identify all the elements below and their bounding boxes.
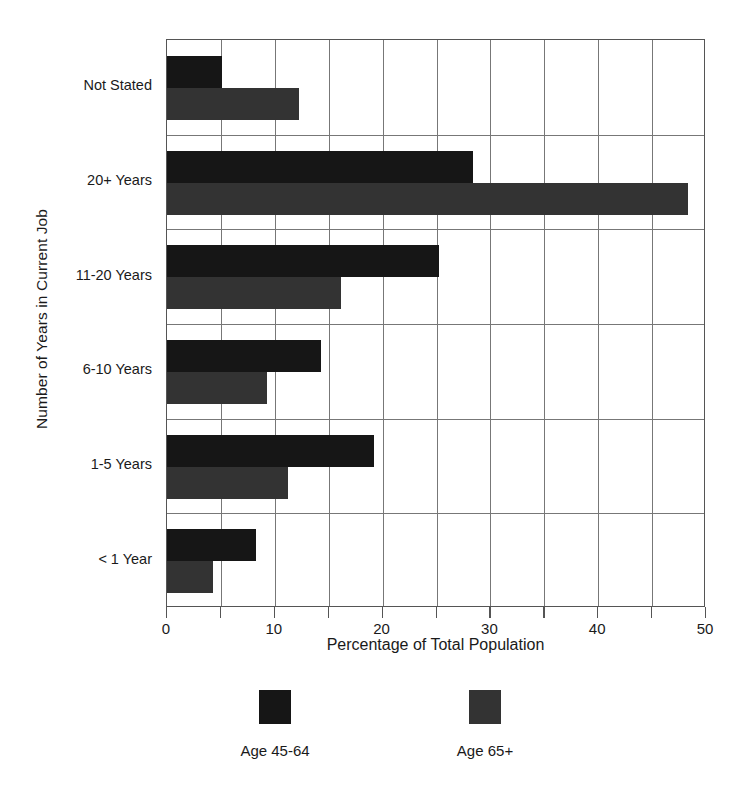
bar [167,467,288,499]
bar-group [167,419,704,514]
x-axis-tick [274,607,275,618]
bar-group [167,324,704,419]
bar-group [167,40,704,135]
plot-area [166,39,705,607]
x-axis-tick [166,607,167,618]
x-axis-tick [382,607,383,618]
legend-item: Age 65+ [400,690,570,759]
x-axis-ticks: 01020304050 [166,607,705,619]
x-axis-tick-label: 30 [481,620,498,637]
x-axis-tick-label: 50 [697,620,714,637]
legend-label: Age 45-64 [190,742,360,759]
bar [167,56,222,88]
x-axis-tick [328,607,329,618]
x-axis-tick [705,607,706,618]
y-axis-tick-label: 1-5 Years [0,456,152,472]
bar [167,277,341,309]
legend-swatch [259,690,291,724]
y-axis-tick-label: < 1 Year [0,551,152,567]
bar-group [167,229,704,324]
bar-chart: Number of Years in Current Job < 1 Year1… [0,0,751,799]
bar [167,183,688,215]
x-axis-title: Percentage of Total Population [166,636,705,654]
x-axis-tick-label: 10 [265,620,282,637]
y-axis-tick-label: 6-10 Years [0,361,152,377]
x-axis-tick-label: 20 [373,620,390,637]
x-axis-tick-label: 0 [162,620,170,637]
x-axis-tick [436,607,437,618]
y-axis-title: Number of Years in Current Job [33,109,51,529]
y-axis-tick-label: Not Stated [0,77,152,93]
bar-group [167,513,704,608]
bar [167,435,374,467]
x-axis-tick [651,607,652,618]
x-axis-tick [220,607,221,618]
legend-label: Age 65+ [400,742,570,759]
bar [167,151,473,183]
bar-group [167,135,704,230]
x-axis-tick [489,607,490,618]
bar [167,245,439,277]
legend-swatch [469,690,501,724]
bar [167,561,213,593]
y-axis-tick-label: 20+ Years [0,172,152,188]
chart-legend: Age 45-64Age 65+ [0,690,751,780]
y-axis-tick-label: 11-20 Years [0,267,152,283]
x-axis-tick [543,607,544,618]
legend-item: Age 45-64 [190,690,360,759]
bar [167,88,299,120]
x-axis-tick-label: 40 [589,620,606,637]
bar [167,372,267,404]
x-axis-tick [597,607,598,618]
bar [167,529,256,561]
bar [167,340,321,372]
